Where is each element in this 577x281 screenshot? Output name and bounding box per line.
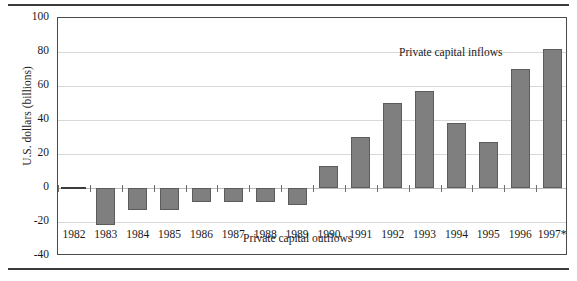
x-axis-label: 1993 xyxy=(409,228,441,240)
x-tick-mark xyxy=(313,185,314,192)
gridline--20 xyxy=(58,222,566,223)
x-axis-label: 1983 xyxy=(90,228,122,240)
annotation-outflows: Private capital outflows xyxy=(243,232,352,244)
x-tick-mark xyxy=(217,185,218,192)
x-tick-mark xyxy=(186,185,187,192)
gridline-40 xyxy=(58,120,566,121)
x-axis-label: 1997* xyxy=(536,228,568,240)
bar xyxy=(415,91,434,188)
plot-area: 1982198319841985198619871988198919901991… xyxy=(57,17,567,255)
y-tick-label: 0 xyxy=(43,181,49,192)
bar xyxy=(479,142,498,188)
bar xyxy=(160,188,179,210)
bar xyxy=(96,188,115,225)
plot-inner: 1982198319841985198619871988198919901991… xyxy=(58,18,566,254)
chart-figure: U.S. dollars (billions) -40-200204060801… xyxy=(0,0,577,281)
y-tick-label: 100 xyxy=(32,11,49,22)
bar xyxy=(351,137,370,188)
gridline-60 xyxy=(58,86,566,87)
bar xyxy=(511,69,530,188)
x-tick-mark xyxy=(58,185,59,192)
x-tick-mark xyxy=(409,185,410,192)
x-axis-label: 1985 xyxy=(154,228,186,240)
bar xyxy=(192,188,211,202)
bar xyxy=(128,188,147,210)
x-tick-mark xyxy=(441,185,442,192)
bar xyxy=(61,187,86,189)
y-axis: U.S. dollars (billions) -40-200204060801… xyxy=(0,0,57,281)
x-tick-mark xyxy=(504,185,505,192)
bar xyxy=(543,49,562,188)
y-tick-label: 40 xyxy=(38,113,50,124)
bar xyxy=(447,123,466,188)
x-axis-label: 1986 xyxy=(186,228,218,240)
y-tick-label: 80 xyxy=(38,45,50,56)
top-rule xyxy=(8,4,569,6)
x-axis-label: 1994 xyxy=(441,228,473,240)
x-axis-label: 1996 xyxy=(504,228,536,240)
x-tick-mark xyxy=(345,185,346,192)
y-tick-label: -40 xyxy=(34,249,49,260)
x-tick-mark xyxy=(377,185,378,192)
y-axis-title: U.S. dollars (billions) xyxy=(21,26,33,206)
bar xyxy=(288,188,307,205)
x-axis-label: 1995 xyxy=(472,228,504,240)
bar xyxy=(256,188,275,202)
x-tick-mark xyxy=(90,185,91,192)
x-tick-mark xyxy=(249,185,250,192)
x-axis-label: 1982 xyxy=(58,228,90,240)
bar xyxy=(224,188,243,202)
y-tick-label: -20 xyxy=(34,215,49,226)
x-tick-mark xyxy=(472,185,473,192)
y-tick-label: 60 xyxy=(38,79,50,90)
bottom-rule xyxy=(8,268,569,270)
x-axis-label: 1984 xyxy=(122,228,154,240)
x-tick-mark xyxy=(281,185,282,192)
x-tick-mark xyxy=(536,185,537,192)
annotation-inflows: Private capital inflows xyxy=(399,46,502,58)
x-tick-mark xyxy=(154,185,155,192)
bar xyxy=(383,103,402,188)
y-tick-label: 20 xyxy=(38,147,50,158)
x-axis-label: 1992 xyxy=(377,228,409,240)
x-tick-mark xyxy=(122,185,123,192)
bar xyxy=(319,166,338,188)
